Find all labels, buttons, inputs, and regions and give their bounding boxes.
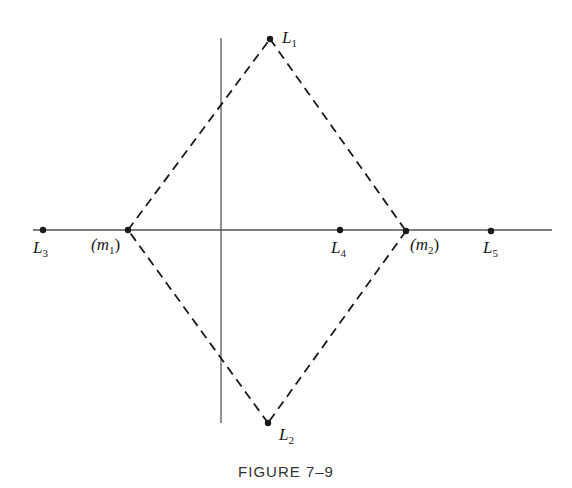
label-L5: L5 bbox=[482, 238, 498, 259]
dashed-edge-m2-L2 bbox=[268, 231, 406, 423]
dashed-edge-m1-L1 bbox=[128, 39, 270, 230]
label-L4: L4 bbox=[330, 238, 346, 259]
lagrange-points-diagram: L1L2L3L4L5(m1)(m2) FIGURE 7–9 bbox=[0, 0, 572, 488]
point-m1 bbox=[125, 227, 131, 233]
point-L5 bbox=[488, 228, 494, 234]
points-layer bbox=[40, 36, 494, 426]
dashed-edge-L1-m2 bbox=[270, 39, 406, 231]
point-L4 bbox=[337, 227, 343, 233]
dashed-edge-L2-m1 bbox=[128, 230, 268, 423]
label-L1: L1 bbox=[281, 28, 297, 49]
point-L2 bbox=[265, 420, 271, 426]
point-L3 bbox=[40, 227, 46, 233]
label-m1: (m1) bbox=[91, 235, 120, 256]
figure-caption: FIGURE 7–9 bbox=[238, 463, 334, 480]
point-L1 bbox=[267, 36, 273, 42]
label-L2: L2 bbox=[278, 425, 294, 446]
labels-layer: L1L2L3L4L5(m1)(m2) bbox=[32, 28, 498, 446]
point-m2 bbox=[403, 228, 409, 234]
label-L3: L3 bbox=[32, 238, 48, 259]
label-m2: (m2) bbox=[410, 235, 439, 256]
dashed-rhombus bbox=[128, 39, 406, 423]
